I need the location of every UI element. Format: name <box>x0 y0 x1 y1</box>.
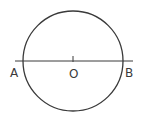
circle-diagram: A O B <box>0 0 144 118</box>
label-a: A <box>10 66 19 80</box>
label-b: B <box>125 66 133 80</box>
label-o: O <box>69 67 78 81</box>
